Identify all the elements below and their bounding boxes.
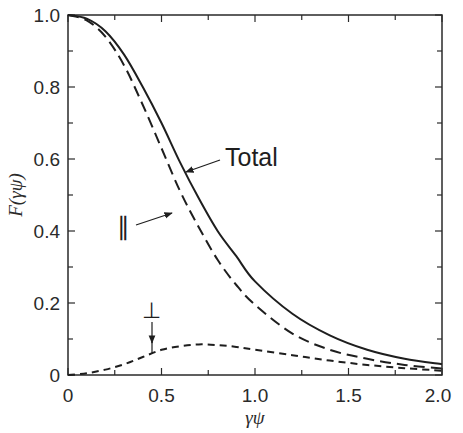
y-tick-0.2: 0.2	[34, 293, 60, 314]
plot-frame	[68, 15, 442, 375]
x-tick-0: 0	[63, 385, 74, 406]
total-arrow	[186, 160, 220, 172]
perpendicular-annotation: ⊥	[142, 298, 161, 323]
x-tick-1.5: 1.5	[335, 385, 361, 406]
y-tick-1.0: 1.0	[34, 5, 60, 26]
curve-parallel	[68, 15, 442, 369]
y-tick-0.8: 0.8	[34, 77, 60, 98]
axis-ticks	[68, 15, 442, 375]
y-tick-0.4: 0.4	[34, 221, 61, 242]
parallel-annotation: ∥	[117, 212, 130, 241]
parallel-arrow	[136, 213, 172, 225]
x-axis-label: γψ	[245, 407, 265, 428]
line-chart: 0 0.5 1.0 1.5 2.0 0 0.2 0.4 0.6 0.8 1.0 …	[0, 0, 463, 433]
x-tick-1.0: 1.0	[242, 385, 268, 406]
x-tick-2.0: 2.0	[425, 385, 451, 406]
y-tick-0: 0	[49, 365, 60, 386]
total-annotation: Total	[225, 143, 278, 171]
curves	[68, 15, 442, 375]
y-tick-0.6: 0.6	[34, 149, 60, 170]
x-tick-0.5: 0.5	[148, 385, 174, 406]
y-axis-label: F(γψ)	[5, 173, 27, 218]
curve-total	[68, 15, 442, 364]
